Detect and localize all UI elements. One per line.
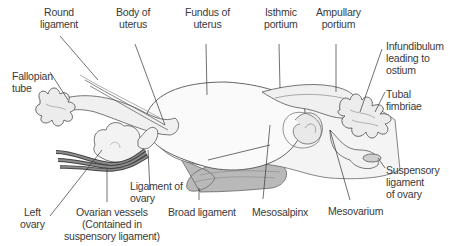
label-mesosalpinx: Mesosalpinx xyxy=(252,206,308,218)
label-ovarian-vessels: Ovarian vessels (Contained in suspensory… xyxy=(64,206,160,242)
label-isthmic-portium: Isthmic portium xyxy=(264,6,298,30)
label-round-ligament: Round ligament xyxy=(40,6,78,30)
label-body-of-uterus: Body of uterus xyxy=(116,6,150,30)
label-ampullary-portium: Ampullary portium xyxy=(316,6,361,30)
label-fallopian-tube: Fallopian tube xyxy=(12,70,53,94)
label-mesovarium: Mesovarium xyxy=(328,205,383,217)
label-infundibulum: Infundibulum leading to ostium xyxy=(386,40,444,76)
label-ligament-of-ovary: Ligament of ovary xyxy=(130,180,183,204)
label-suspensory-ligament: Suspensory ligament of ovary xyxy=(386,164,439,200)
label-tubal-fimbriae: Tubal fimbriae xyxy=(386,88,422,112)
label-left-ovary: Left ovary xyxy=(20,206,45,230)
label-broad-ligament: Broad ligament xyxy=(168,206,236,218)
anatomy-diagram: Round ligament Body of uterus Fundus of … xyxy=(0,0,450,246)
label-fundus-of-uterus: Fundus of uterus xyxy=(185,6,230,30)
ligament-of-ovary-shape xyxy=(138,127,158,149)
